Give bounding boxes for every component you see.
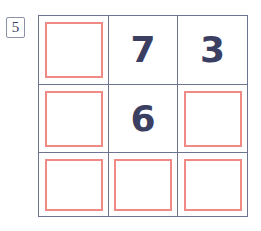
cell-digit: 6 — [130, 101, 155, 137]
index-badge-label: 5 — [12, 20, 20, 35]
grid-cell-r3c3[interactable] — [178, 153, 247, 216]
grid-cell-r2c1[interactable] — [39, 85, 109, 153]
puzzle-grid: 7 3 6 — [38, 15, 248, 217]
grid-cell-r2c2[interactable]: 6 — [109, 85, 178, 153]
empty-slot-square — [114, 159, 172, 211]
cell-digit: 7 — [130, 32, 155, 68]
empty-slot-square — [184, 159, 242, 211]
empty-slot-square — [184, 91, 242, 147]
grid-cell-r3c2[interactable] — [109, 153, 178, 216]
index-badge: 5 — [6, 17, 25, 38]
empty-slot-square — [45, 22, 103, 78]
grid-cell-r3c1[interactable] — [39, 153, 109, 216]
puzzle-container: 5 7 3 6 — [0, 0, 261, 231]
grid-cell-r1c2[interactable]: 7 — [109, 16, 178, 85]
grid-cell-r1c3[interactable]: 3 — [178, 16, 247, 85]
cell-digit: 3 — [200, 32, 225, 68]
grid-cell-r1c1[interactable] — [39, 16, 109, 85]
empty-slot-square — [45, 159, 103, 211]
grid-cell-r2c3[interactable] — [178, 85, 247, 153]
empty-slot-square — [45, 91, 103, 147]
